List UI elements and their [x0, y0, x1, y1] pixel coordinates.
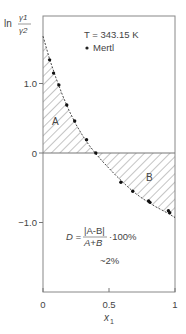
- region-label-a: A: [52, 116, 59, 127]
- formula-denominator: A+B: [83, 237, 103, 248]
- y-tick-label: −1.0: [18, 217, 37, 228]
- data-point: [94, 151, 97, 154]
- data-point: [148, 201, 151, 204]
- region-a-area: [43, 36, 95, 153]
- x-axis-label: x: [103, 312, 110, 323]
- y-axis-ticks: 1.00−1.0: [18, 78, 43, 228]
- x-tick-label: 0: [40, 299, 45, 310]
- formula-rhs: ·100%: [109, 231, 137, 242]
- x-tick-label: 0.5: [102, 299, 115, 310]
- data-point: [57, 83, 60, 86]
- y-axis-label-ln: ln: [4, 18, 12, 29]
- temperature-annotation: T = 343.15 K: [84, 29, 139, 40]
- data-point: [119, 180, 122, 183]
- x-tick-label: 1: [172, 299, 177, 310]
- formula-numerator: |A-B|: [84, 225, 105, 236]
- data-point: [52, 71, 55, 74]
- data-point: [168, 211, 171, 214]
- data-point: [65, 103, 68, 106]
- y-tick-label: 0: [32, 148, 37, 159]
- y-axis-label-denominator: γ2: [19, 26, 28, 35]
- result-annotation: ~2%: [100, 255, 120, 266]
- x-axis-ticks: 00.51: [40, 288, 177, 310]
- hatched-regions: [43, 36, 175, 217]
- region-b-area: [95, 153, 175, 218]
- y-axis-label-numerator: γ1: [19, 13, 27, 22]
- data-point: [85, 138, 88, 141]
- region-label-b: B: [146, 172, 153, 183]
- data-point: [73, 119, 76, 122]
- formula-lhs: D =: [66, 231, 82, 242]
- legend-label-mertl: Mertl: [93, 42, 114, 53]
- data-point: [131, 190, 134, 193]
- data-point: [48, 58, 51, 61]
- x-axis-label-subscript: 1: [110, 318, 114, 325]
- chart: 1.00−1.0 00.51 ln γ1 γ2 T = 343.15 K Mer…: [0, 0, 186, 334]
- y-tick-label: 1.0: [24, 78, 37, 89]
- legend-marker-icon: [85, 46, 88, 49]
